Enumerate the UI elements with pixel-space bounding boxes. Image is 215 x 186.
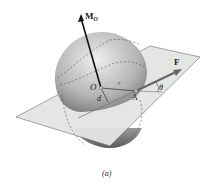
position-label: r [118, 80, 120, 86]
moment-subscript: O [94, 16, 98, 22]
figure-caption: (a) [102, 170, 111, 178]
point-label: A [132, 94, 138, 102]
moment-symbol: M [85, 11, 94, 21]
moment-diagram [0, 0, 215, 186]
angle-label: θ [159, 84, 163, 92]
force-label: F [174, 58, 180, 67]
distance-label: d [97, 95, 101, 103]
origin-label: O [90, 83, 97, 92]
moment-label: MO [85, 12, 98, 22]
